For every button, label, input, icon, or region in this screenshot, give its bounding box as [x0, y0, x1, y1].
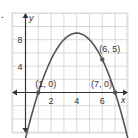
y-tick-label: 4 [17, 62, 22, 72]
data-point [100, 57, 104, 61]
y-axis-label: y [28, 13, 34, 23]
data-point [36, 90, 40, 94]
y-tick-label: 8 [17, 35, 22, 45]
x-tick-label: 2 [49, 96, 54, 106]
x-axis-label: x [120, 95, 126, 105]
data-points: (1, 0)(7, 0)(6, 5) [35, 44, 120, 95]
data-point [113, 90, 117, 94]
parabola-graph: xy (1, 0)(7, 0)(6, 5) 24648 [0, 0, 138, 138]
grid-border [12, 13, 127, 133]
tick-labels: 24648 [17, 35, 104, 106]
x-tick-label: 4 [74, 96, 79, 106]
data-point-label: (6, 5) [99, 44, 120, 54]
data-point-label: (7, 0) [91, 79, 112, 89]
data-point-label: (1, 0) [35, 79, 56, 89]
grid-lines [12, 13, 128, 133]
x-tick-label: 6 [100, 96, 105, 106]
